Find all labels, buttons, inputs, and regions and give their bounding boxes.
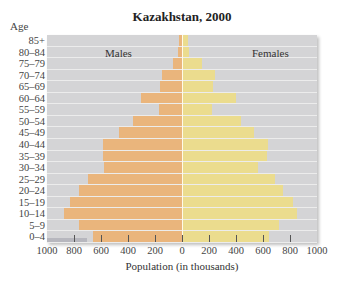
x-tick — [74, 235, 75, 242]
bar-females — [182, 93, 236, 104]
age-label: 55–59 — [0, 104, 45, 116]
bar-females — [182, 127, 254, 138]
age-label: 80–84 — [0, 47, 45, 59]
age-label: 15–19 — [0, 197, 45, 209]
bar-females — [182, 81, 213, 92]
age-label: 10–14 — [0, 208, 45, 220]
x-tick — [128, 235, 129, 242]
age-label: 85+ — [0, 35, 45, 47]
plot-area: Males Females — [47, 35, 317, 243]
age-label: 50–54 — [0, 116, 45, 128]
x-tick — [263, 235, 264, 242]
bar-males — [64, 208, 182, 219]
age-label: 60–64 — [0, 93, 45, 105]
x-tick — [155, 235, 156, 242]
bar-females — [182, 208, 297, 219]
bar-females — [182, 47, 189, 58]
bar-females — [182, 185, 283, 196]
age-label: 70–74 — [0, 70, 45, 82]
bar-males — [104, 162, 182, 173]
bar-females — [182, 70, 215, 81]
age-label: 25–29 — [0, 174, 45, 186]
bar-females — [182, 174, 275, 185]
bar-females — [182, 116, 241, 127]
bar-males — [88, 174, 182, 185]
bar-males — [103, 151, 182, 162]
bar-males — [103, 139, 182, 150]
axis-base-strip — [47, 238, 87, 242]
age-label: 40–44 — [0, 139, 45, 151]
x-tick — [182, 235, 183, 242]
x-tick-label: 1000 — [297, 245, 337, 256]
chart-title: Kazakhstan, 2000 — [0, 9, 338, 25]
bar-males — [162, 70, 182, 81]
legend-males: Males — [105, 47, 132, 59]
bar-males — [173, 58, 182, 69]
zero-line — [182, 35, 183, 243]
x-tick — [101, 235, 102, 242]
bar-males — [119, 127, 182, 138]
bar-females — [182, 151, 267, 162]
x-axis-title: Population (in thousands) — [0, 260, 338, 272]
bar-males — [93, 231, 182, 242]
x-tick — [236, 235, 237, 242]
age-label: 30–34 — [0, 162, 45, 174]
bar-males — [79, 185, 182, 196]
bar-males — [79, 220, 182, 231]
bar-males — [70, 197, 182, 208]
age-label: 35–39 — [0, 151, 45, 163]
age-label: 5–9 — [0, 220, 45, 232]
bar-females — [182, 104, 212, 115]
bar-males — [160, 81, 182, 92]
bar-females — [182, 58, 202, 69]
age-label: 0–4 — [0, 231, 45, 243]
age-label: 65–69 — [0, 81, 45, 93]
bar-males — [159, 104, 182, 115]
y-axis-title: Age — [10, 20, 28, 32]
bar-females — [182, 162, 258, 173]
age-label: 45–49 — [0, 127, 45, 139]
age-label: 75–79 — [0, 58, 45, 70]
bar-females — [182, 197, 293, 208]
x-tick — [209, 235, 210, 242]
legend-females: Females — [252, 47, 289, 59]
age-label: 20–24 — [0, 185, 45, 197]
x-tick — [290, 235, 291, 242]
bar-males — [133, 116, 182, 127]
bar-females — [182, 139, 268, 150]
bar-females — [182, 220, 279, 231]
bar-males — [141, 93, 182, 104]
bar-females — [182, 231, 269, 242]
